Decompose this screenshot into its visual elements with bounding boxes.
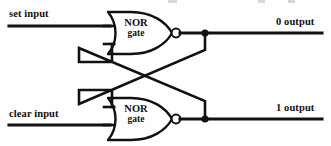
output-1-label: 1 output: [276, 102, 314, 113]
clear-input-label: clear input: [9, 108, 59, 119]
nor-gate-top-label: NOR gate: [112, 18, 160, 39]
sr-latch-figure: set input clear input 0 output 1 output …: [0, 0, 331, 146]
nor-gate-bottom-label: NOR gate: [112, 104, 160, 125]
nor-gate-bottom-subname: gate: [112, 115, 160, 125]
output-0-label: 0 output: [276, 16, 314, 27]
nor-gate-top-subname: gate: [112, 29, 160, 39]
junction-dot-1-output: [201, 115, 208, 122]
junction-dot-0-output: [201, 29, 208, 36]
set-input-label: set input: [9, 8, 49, 19]
